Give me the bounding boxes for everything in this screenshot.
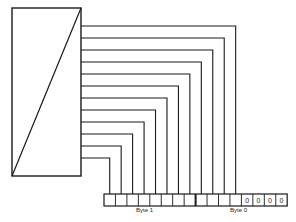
byte0-label: Byte 0 bbox=[230, 207, 247, 213]
adc-register-diagram: 0000 bbox=[0, 0, 296, 222]
register-fixed-bit: 0 bbox=[257, 197, 261, 204]
register-fixed-bit: 0 bbox=[245, 197, 249, 204]
data-wire bbox=[81, 158, 110, 194]
data-wire bbox=[81, 86, 178, 194]
data-wire bbox=[81, 134, 133, 194]
register-fixed-bit: 0 bbox=[268, 197, 272, 204]
register-fixed-bit: 0 bbox=[280, 197, 284, 204]
converter-diagonal-icon bbox=[12, 8, 81, 176]
data-wire bbox=[81, 38, 224, 194]
data-wire bbox=[81, 62, 201, 194]
data-wire bbox=[81, 146, 121, 194]
byte1-label: Byte 1 bbox=[136, 207, 153, 213]
